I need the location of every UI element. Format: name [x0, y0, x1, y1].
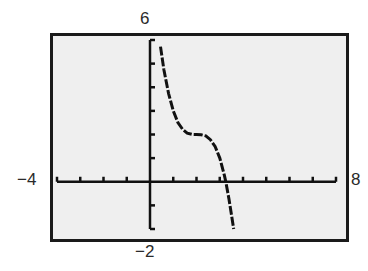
- function-curve: [161, 47, 234, 229]
- graph-plot: [0, 0, 368, 271]
